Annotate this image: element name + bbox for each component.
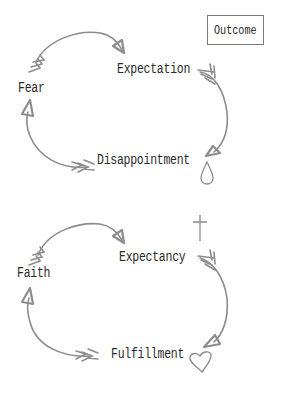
outcome-label: Outcome <box>214 23 257 38</box>
diagram-canvas: Outcome Fear Expectation Disappointment … <box>0 0 285 395</box>
arrow-expectancy-to-fulfillment <box>198 250 227 347</box>
node-fear: Fear <box>18 80 45 96</box>
node-expectation: Expectation <box>117 61 190 77</box>
arrow-fear-to-expectation <box>29 32 124 72</box>
node-disappointment: Disappointment <box>97 152 190 168</box>
outcome-legend-box: Outcome <box>207 15 264 45</box>
cross-icon <box>193 215 207 241</box>
arrow-faith-to-expectancy <box>29 224 124 265</box>
arrow-disappointment-to-fear <box>22 100 94 172</box>
heart-icon <box>190 352 211 372</box>
arrow-fulfillment-to-faith <box>22 288 98 361</box>
arrow-expectation-to-disappointment <box>198 64 227 156</box>
node-fulfillment: Fulfillment <box>111 346 184 362</box>
node-faith: Faith <box>17 265 50 281</box>
node-expectancy: Expectancy <box>119 249 185 265</box>
teardrop-icon <box>201 162 213 184</box>
